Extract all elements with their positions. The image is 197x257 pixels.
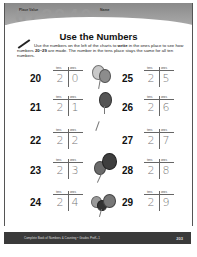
place-value-chart: tens ones 2 6	[144, 95, 174, 117]
row-number: 27	[122, 135, 133, 146]
footer-book-title: Complete Book of Numbers & Counting • Gr…	[24, 236, 100, 240]
row-number: 28	[122, 165, 133, 176]
tens-digit[interactable]: 2	[144, 101, 158, 114]
worksheet-page: 672940 Place Value Name Use the Numbers …	[4, 3, 193, 226]
ones-digit[interactable]: 9	[159, 196, 173, 209]
row-number: 22	[30, 135, 41, 146]
place-value-chart: tens ones 2 4	[53, 190, 83, 212]
place-value-chart: tens ones 2 0	[53, 66, 83, 88]
page-title: Use the Numbers	[5, 31, 192, 42]
place-value-chart: tens ones 2 2	[53, 128, 83, 150]
place-value-chart: tens ones 2 8	[144, 158, 174, 180]
number-row: 22 tens ones 2 2	[5, 128, 95, 152]
row-number: 25	[122, 73, 133, 84]
number-row: 24 tens ones 2 4	[5, 190, 95, 214]
number-row: 20 tens ones 2 0	[5, 66, 95, 90]
tens-digit[interactable]: 2	[53, 134, 67, 147]
place-value-chart: tens ones 2 3	[53, 158, 83, 180]
balloon-string	[95, 121, 99, 131]
ones-digit[interactable]: 0	[68, 72, 82, 85]
ones-digit[interactable]: 5	[159, 72, 173, 85]
ones-digit[interactable]: 8	[159, 164, 173, 177]
ones-digit[interactable]: 3	[68, 164, 82, 177]
tens-digit[interactable]: 2	[144, 72, 158, 85]
header-name-label: Name	[100, 8, 110, 12]
balloon-icon	[102, 153, 117, 170]
footer-bar: Complete Book of Numbers & Counting • Gr…	[4, 232, 191, 244]
ones-digit[interactable]: 1	[68, 101, 82, 114]
place-value-chart: tens ones 2 7	[144, 128, 174, 150]
row-number: 26	[122, 102, 133, 113]
number-row: 27 tens ones 2 7	[100, 128, 190, 152]
tens-digit[interactable]: 2	[53, 101, 67, 114]
number-row: 26 tens ones 2 6	[100, 95, 190, 119]
ones-digit[interactable]: 4	[68, 196, 82, 209]
ones-digit[interactable]: 6	[159, 101, 173, 114]
balloon-icon	[99, 69, 111, 83]
instructions: Use the numbers on the left of the chart…	[17, 43, 185, 59]
balloon-string	[104, 106, 105, 114]
row-number: 20	[30, 73, 41, 84]
row-number: 24	[30, 197, 41, 208]
instructions-range: 20–29	[35, 48, 47, 53]
tens-digit[interactable]: 2	[144, 164, 158, 177]
tens-digit[interactable]: 2	[144, 196, 158, 209]
tens-digit[interactable]: 2	[144, 134, 158, 147]
row-number: 23	[30, 165, 41, 176]
balloon-icon	[103, 194, 116, 208]
row-number: 29	[122, 197, 133, 208]
header-banner: 672940 Place Value Name	[5, 3, 192, 25]
place-value-chart: tens ones 2 9	[144, 190, 174, 212]
ones-digit[interactable]: 7	[159, 134, 173, 147]
place-value-chart: tens ones 2 5	[144, 66, 174, 88]
balloon-icon	[99, 92, 112, 108]
ones-digit[interactable]: 2	[68, 134, 82, 147]
page-number: 203	[176, 236, 183, 241]
row-number: 21	[30, 102, 41, 113]
number-row: 23 tens ones 2 3	[5, 158, 95, 182]
header-topic-label: Place Value	[19, 8, 38, 12]
tens-digit[interactable]: 2	[53, 196, 67, 209]
number-row: 21 tens ones 2 1	[5, 95, 95, 119]
number-row: 25 tens ones 2 5	[100, 66, 190, 90]
place-value-chart: tens ones 2 1	[53, 95, 83, 117]
tens-digit[interactable]: 2	[53, 72, 67, 85]
tens-digit[interactable]: 2	[53, 164, 67, 177]
